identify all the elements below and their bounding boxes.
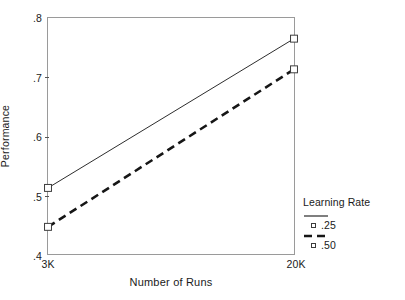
x-axis-tick-label: 3K <box>41 254 54 270</box>
legend-marker-icon <box>311 223 316 228</box>
y-axis-tick: .7 <box>33 72 48 84</box>
y-axis-tick-label: .5 <box>33 191 45 203</box>
data-layer <box>48 18 294 254</box>
chart-screenshot: Performance .8.7.6.5.4 3K20K Number of R… <box>0 0 405 300</box>
series-line-50 <box>48 69 294 227</box>
legend-label: .50 <box>321 239 336 251</box>
y-axis-title: Performance <box>0 105 11 167</box>
y-axis-tick: .5 <box>33 191 48 203</box>
legend-title: Learning Rate <box>303 196 403 208</box>
data-point-marker <box>45 223 52 230</box>
y-axis-tick-label: .7 <box>33 72 45 84</box>
data-point-marker <box>291 66 298 73</box>
data-point-marker <box>45 184 52 191</box>
y-axis-tick: .6 <box>33 131 48 143</box>
y-axis-tick-label: .6 <box>33 131 45 143</box>
legend-label: .25 <box>321 219 336 231</box>
legend-entry: .50 <box>303 232 403 251</box>
legend-entry: .25 <box>303 212 403 231</box>
data-point-marker <box>291 35 298 42</box>
series-line-25 <box>48 39 294 188</box>
plot-area: .8.7.6.5.4 3K20K <box>47 17 295 255</box>
x-axis-title: Number of Runs <box>47 276 295 288</box>
x-axis-tick-label: 20K <box>287 254 306 270</box>
legend-row: .25 <box>303 219 403 231</box>
legend-row: .50 <box>303 239 403 251</box>
legend-marker-icon <box>311 243 316 248</box>
y-axis-tick-label: .8 <box>33 12 45 24</box>
y-axis-tick: .8 <box>33 12 48 24</box>
series-svg <box>48 18 294 254</box>
legend-entry-group: .25.50 <box>303 212 403 251</box>
legend: Learning Rate .25.50 <box>303 196 403 252</box>
